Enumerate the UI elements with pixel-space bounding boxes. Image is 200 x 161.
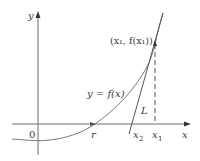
- x-axis-label: x: [182, 129, 188, 140]
- x1-subscript: 1: [158, 135, 162, 143]
- tangent-line-label: L: [140, 105, 148, 116]
- origin-label: 0: [29, 129, 35, 140]
- y-axis-label: y: [27, 10, 34, 21]
- x-axis-arrow-icon: [184, 122, 191, 127]
- tangent-point-label: (x₁, f(x₁)): [110, 35, 153, 46]
- function-curve: [12, 13, 163, 141]
- curve-label: y = f(x): [86, 88, 125, 99]
- x2-subscript: 2: [139, 135, 143, 143]
- tangent-point-marker-icon: [153, 40, 157, 46]
- y-axis-arrow-icon: [36, 11, 41, 18]
- newton-method-diagram: y x 0 (x₁, f(x₁)) y = f(x) L r x 2 x 1: [0, 0, 200, 161]
- root-label: r: [91, 129, 97, 140]
